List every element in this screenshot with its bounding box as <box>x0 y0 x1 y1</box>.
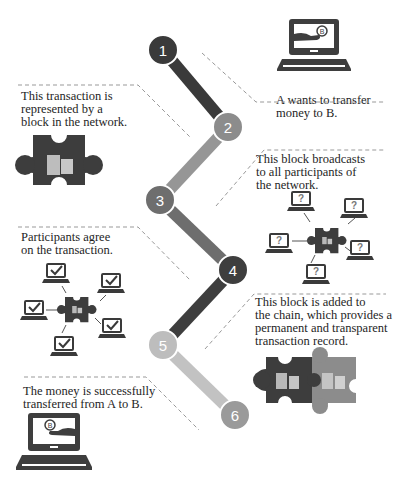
laptop-question-icon <box>287 192 315 211</box>
laptop-question-icon <box>265 234 293 253</box>
process-diagram: ? 1 <box>0 0 397 495</box>
bitcoin-icon: B <box>48 422 53 429</box>
laptop-bitcoin-icon-b: B <box>16 413 92 470</box>
block-puzzle-icon <box>15 135 103 185</box>
chain-puzzle-icon <box>253 347 356 414</box>
step-circle-5: 5 <box>148 330 178 360</box>
puzzle-icon <box>57 297 97 322</box>
connector-step-2 <box>18 85 190 137</box>
laptop-question-icon <box>302 265 330 284</box>
step-number-6: 6 <box>231 407 239 424</box>
step-circle-2: 2 <box>213 112 243 142</box>
laptop-check-icon <box>20 301 48 320</box>
laptop-question-icon <box>340 199 368 218</box>
step-circle-4: 4 <box>218 255 248 285</box>
puzzle-icon <box>307 228 347 253</box>
step-number-4: 4 <box>229 262 237 279</box>
step-number-2: 2 <box>224 119 232 136</box>
data-block-icon <box>47 155 60 175</box>
laptop-check-icon <box>98 319 126 338</box>
step-number-3: 3 <box>156 192 164 209</box>
data-block-icon <box>322 373 333 389</box>
connector-step-5 <box>205 294 386 349</box>
laptop-bitcoin-icon-a: B <box>277 19 351 71</box>
step-circle-6: 6 <box>220 400 250 430</box>
data-block-icon <box>289 376 299 389</box>
step-circle-3: 3 <box>145 185 175 215</box>
broadcast-network <box>265 192 374 284</box>
bitcoin-icon: B <box>320 28 325 35</box>
connector-step-4 <box>18 227 190 280</box>
laptop-check-icon <box>97 274 125 293</box>
step-number-1: 1 <box>159 42 167 59</box>
laptop-question-icon <box>346 241 374 260</box>
consensus-network <box>20 264 126 356</box>
laptop-check-icon <box>42 264 70 283</box>
zigzag-path <box>160 50 235 415</box>
laptop-check-icon <box>50 337 78 356</box>
data-block-icon <box>61 159 73 174</box>
data-block-icon <box>276 373 287 389</box>
step-circle-1: 1 <box>148 35 178 65</box>
step-number-5: 5 <box>159 337 167 354</box>
data-block-icon <box>335 376 345 389</box>
